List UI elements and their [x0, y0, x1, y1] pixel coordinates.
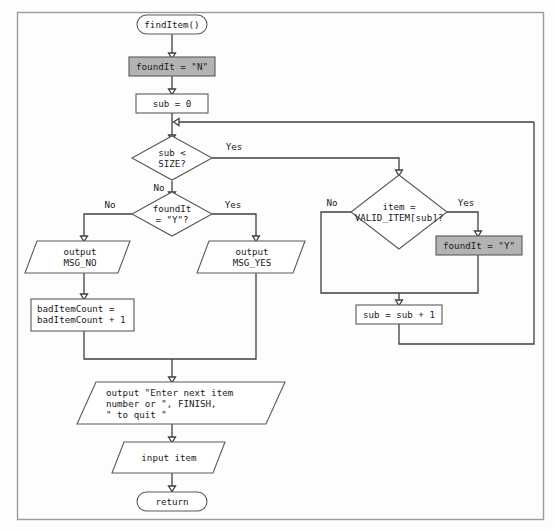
- node-valid-test[interactable]: item = VALID_ITEM[sub]?: [351, 175, 447, 249]
- edge-foundtest-yes: [212, 214, 256, 236]
- start-label: findItem(): [144, 19, 199, 30]
- output-msg-no-line2: MSG_NO: [63, 257, 96, 268]
- incr-sub-label: sub = sub + 1: [363, 309, 435, 320]
- arrowhead: [169, 486, 176, 492]
- valid-test-line2: VALID_ITEM[sub]?: [355, 212, 444, 223]
- edge-validtest-yes: [447, 212, 478, 231]
- flowchart-svg: findItem() foundIt = "N" sub = 0 sub < S…: [0, 0, 555, 530]
- node-input-item[interactable]: input item: [112, 442, 225, 473]
- valid-test-yes-label: Yes: [458, 197, 475, 208]
- return-label: return: [155, 496, 188, 507]
- edge-badcount-to-join: [84, 331, 172, 359]
- prompt-line3: " to quit ": [106, 409, 167, 420]
- loop-test-line2: SIZE?: [158, 158, 186, 169]
- found-test-line1: foundIt: [153, 203, 192, 214]
- output-msg-yes-line2: MSG_YES: [233, 257, 272, 268]
- node-bad-item-count[interactable]: badItemCount = badItemCount + 1: [31, 299, 134, 331]
- diagram-canvas: findItem() foundIt = "N" sub = 0 sub < S…: [0, 0, 555, 530]
- loop-test-yes-label: Yes: [226, 141, 243, 152]
- node-output-msg-no[interactable]: output MSG_NO: [25, 241, 130, 273]
- loop-test-no-label: No: [153, 182, 164, 193]
- edge-setfound-to-join: [399, 254, 478, 293]
- node-init-foundit[interactable]: foundIt = "N": [129, 57, 215, 76]
- arrowhead: [174, 119, 180, 126]
- set-foundit-y-label: foundIt = "Y": [443, 240, 515, 251]
- node-found-test[interactable]: foundIt = "Y"?: [132, 192, 212, 236]
- input-item-label: input item: [141, 452, 197, 463]
- node-loop-test[interactable]: sub < SIZE?: [132, 136, 212, 180]
- valid-test-no-label: No: [326, 197, 337, 208]
- prompt-line1: output "Enter next item: [106, 387, 234, 398]
- edge-looptest-yes: [212, 158, 399, 170]
- node-output-msg-yes[interactable]: output MSG_YES: [197, 241, 305, 273]
- init-foundit-label: foundIt = "N": [136, 61, 208, 72]
- edge-foundtest-no: [84, 214, 132, 236]
- bad-item-count-line2: badItemCount + 1: [37, 314, 126, 325]
- found-test-line2: = "Y"?: [155, 214, 188, 225]
- node-set-foundit-y[interactable]: foundIt = "Y": [436, 236, 522, 255]
- node-start[interactable]: findItem(): [137, 15, 207, 34]
- edge-outyes-to-join: [172, 273, 256, 359]
- loop-test-line1: sub <: [158, 147, 186, 158]
- found-test-yes-label: Yes: [225, 199, 242, 210]
- node-return[interactable]: return: [137, 492, 207, 511]
- node-prompt[interactable]: output "Enter next item number or ", FIN…: [77, 382, 285, 424]
- prompt-line2: number or ", FINISH,: [106, 398, 217, 409]
- valid-test-line1: item =: [382, 201, 416, 212]
- found-test-no-label: No: [104, 199, 115, 210]
- node-incr-sub[interactable]: sub = sub + 1: [356, 305, 442, 324]
- init-sub-label: sub = 0: [153, 98, 192, 109]
- output-msg-no-line1: output: [63, 246, 96, 257]
- output-msg-yes-line1: output: [235, 246, 268, 257]
- node-init-sub[interactable]: sub = 0: [136, 94, 208, 113]
- bad-item-count-line1: badItemCount =: [37, 303, 115, 314]
